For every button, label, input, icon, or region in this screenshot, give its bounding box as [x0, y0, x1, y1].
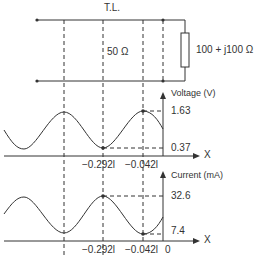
standing-wave-diagram: T.L. 50 Ω 100 + j100 Ω Voltage (V) 1.63 … — [0, 0, 256, 255]
current-x-label: X — [204, 235, 211, 245]
voltage-x-label: X — [204, 150, 211, 160]
diagram-graphics — [0, 0, 256, 255]
voltage-tick-1: −0.292l — [82, 160, 115, 170]
current-max-label: 32.6 — [171, 191, 190, 201]
voltage-min-label: 0.37 — [171, 143, 190, 153]
line-impedance-label: 50 Ω — [107, 47, 128, 57]
load-resistor — [181, 33, 189, 67]
voltage-max-label: 1.63 — [171, 106, 190, 116]
current-tick-1: −0.292l — [82, 245, 115, 255]
load-impedance-label: 100 + j100 Ω — [196, 45, 253, 55]
current-tick-origin: 0 — [165, 245, 171, 255]
current-axis-label: Current (mA) — [171, 171, 223, 180]
voltage-tick-2: −0.042l — [125, 160, 158, 170]
voltage-axis-label: Voltage (V) — [171, 89, 216, 98]
voltage-wave — [4, 111, 163, 149]
current-tick-2: −0.042l — [125, 245, 158, 255]
current-min-label: 7.4 — [171, 226, 185, 236]
junction-dots — [35, 18, 164, 235]
current-wave — [4, 196, 163, 234]
tl-title: T.L. — [104, 3, 120, 13]
